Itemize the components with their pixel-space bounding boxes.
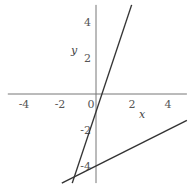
- x-tick-labels: -4-2024: [19, 98, 172, 111]
- y-axis-label: y: [70, 44, 78, 57]
- x-tick-label: 2: [129, 98, 136, 111]
- x-tick-label: -4: [19, 98, 30, 111]
- x-axis-label: x: [139, 108, 146, 121]
- x-tick-label: 4: [165, 98, 172, 111]
- x-tick-label: 0: [88, 98, 95, 111]
- y-tick-label: 4: [84, 16, 91, 29]
- y-tick-label: 2: [84, 52, 91, 65]
- graph-plot: -4-2024 -4-224 x y: [0, 0, 190, 187]
- x-tick-label: -2: [55, 98, 66, 111]
